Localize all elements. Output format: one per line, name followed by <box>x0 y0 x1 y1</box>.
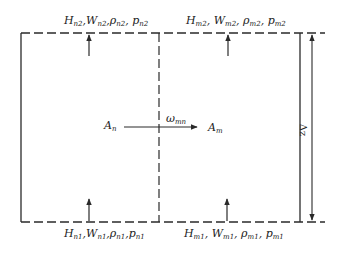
label-top-right: Hm2, Wm2, ρm2, pm2 <box>186 15 286 28</box>
label-area-n: An <box>104 120 116 133</box>
label-bottom-left: Hn1,Wn1,ρn1,pn1 <box>64 228 145 241</box>
label-area-m: Am <box>208 122 223 135</box>
label-top-left: Hn2,Wn2,ρn2, pn2 <box>64 15 148 28</box>
label-bottom-right: Hm1, Wm1, ρm1, pm1 <box>184 228 284 241</box>
control-volume-diagram <box>0 0 338 253</box>
label-exchange-omega: ωmn <box>166 113 186 126</box>
label-height-delta-z: Δz <box>298 124 308 137</box>
